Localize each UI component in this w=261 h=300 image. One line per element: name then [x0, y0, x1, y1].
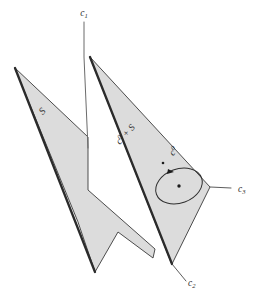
loop-center-dot [177, 184, 180, 187]
loop-label-tick-dot [162, 162, 165, 165]
axis-c2-leader-line [172, 264, 186, 281]
axis-c3-group: c3 [210, 184, 246, 195]
axis-c2-group: c2 [172, 264, 196, 289]
figure-container: c2 c3 c1 S c0 + S [0, 0, 261, 300]
axis-label-c3-subscript: 3 [241, 188, 246, 195]
axis-label-c1: c1 [80, 8, 88, 19]
axis-label-c2: c2 [188, 278, 196, 289]
axis-c3-leader-line [210, 187, 231, 188]
axis-c1-label-group: c1 [80, 8, 88, 19]
axis-label-c2-subscript: 2 [192, 282, 196, 289]
axis-c1-group [84, 22, 88, 148]
axis-label-c1-subscript: 1 [84, 12, 87, 19]
axis-c1-line [84, 22, 88, 148]
axis-label-c3: c3 [238, 184, 246, 195]
geometric-figure-svg: c2 c3 c1 S c0 + S [0, 0, 261, 300]
